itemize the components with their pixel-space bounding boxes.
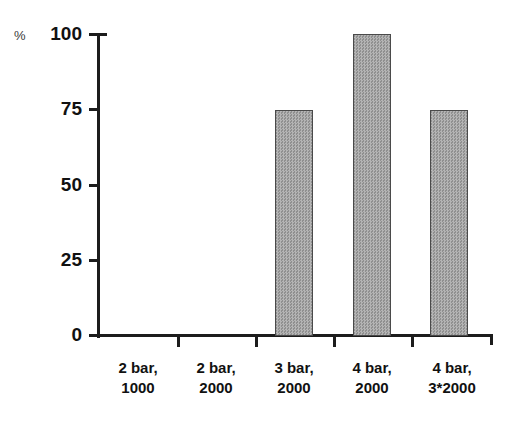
x-label-category-5-line2: 3*2000 bbox=[411, 378, 493, 398]
x-label-category-2-line1: 2 bar, bbox=[196, 359, 235, 376]
y-tick-50 bbox=[89, 184, 98, 187]
y-tick-label-100: 100 bbox=[34, 24, 82, 43]
x-label-category-1-line1: 2 bar, bbox=[118, 359, 157, 376]
y-tick-label-25-wrap: 25 bbox=[34, 250, 82, 270]
y-tick-label-0-wrap: 0 bbox=[34, 325, 82, 345]
plot-area bbox=[99, 34, 492, 336]
bar-category-3 bbox=[275, 110, 313, 337]
y-tick-label-25: 25 bbox=[34, 250, 82, 269]
y-tick-25 bbox=[89, 259, 98, 262]
y-tick-75 bbox=[89, 108, 98, 111]
x-label-category-1: 2 bar, 1000 bbox=[99, 358, 177, 399]
x-label-category-2-line2: 2000 bbox=[177, 378, 255, 398]
x-tick-boundary-2 bbox=[255, 337, 258, 347]
x-label-category-4-line1: 4 bar, bbox=[352, 359, 391, 376]
x-axis-labels: 2 bar, 1000 2 bar, 2000 3 bar, 2000 4 ba… bbox=[99, 358, 492, 414]
y-tick-label-0: 0 bbox=[34, 325, 82, 344]
x-label-category-3-line1: 3 bar, bbox=[274, 359, 313, 376]
x-label-category-5: 4 bar, 3*2000 bbox=[411, 358, 493, 399]
bar-category-5 bbox=[430, 110, 468, 337]
x-label-category-4: 4 bar, 2000 bbox=[333, 358, 411, 399]
y-tick-0 bbox=[89, 334, 98, 337]
y-tick-100 bbox=[89, 33, 98, 36]
x-label-category-5-line1: 4 bar, bbox=[432, 359, 471, 376]
bar-chart: % 100 75 50 25 0 2 bar, 1000 bbox=[0, 0, 520, 423]
x-tick-boundary-3 bbox=[333, 337, 336, 347]
x-label-category-3: 3 bar, 2000 bbox=[255, 358, 333, 399]
y-tick-label-75-wrap: 75 bbox=[34, 99, 82, 119]
y-tick-label-50-wrap: 50 bbox=[34, 175, 82, 195]
x-label-category-4-line2: 2000 bbox=[333, 378, 411, 398]
y-tick-label-100-wrap: 100 bbox=[34, 24, 82, 44]
x-label-category-1-line2: 1000 bbox=[99, 378, 177, 398]
x-label-category-3-line2: 2000 bbox=[255, 378, 333, 398]
y-tick-label-50: 50 bbox=[34, 175, 82, 194]
y-tick-label-75: 75 bbox=[34, 99, 82, 118]
x-label-category-2: 2 bar, 2000 bbox=[177, 358, 255, 399]
bar-category-4 bbox=[353, 34, 391, 336]
x-tick-boundary-4 bbox=[411, 337, 414, 347]
y-axis-unit-label: % bbox=[14, 28, 26, 43]
x-tick-boundary-1 bbox=[177, 337, 180, 347]
